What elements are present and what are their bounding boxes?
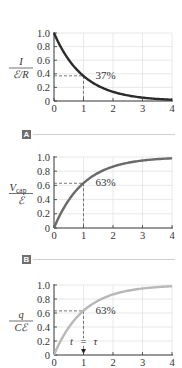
t-equals-tau-marker: t=τ: [70, 336, 99, 355]
y-axis-label: Iℰ/R: [9, 56, 33, 80]
chart-current-decay: 00.20.40.60.81.001234Iℰ/R37%: [0, 0, 182, 125]
chart-capacitor-charge: 00.20.40.60.81.001234qCℰ63%t=τ: [0, 245, 182, 368]
y-axis-label: Vcapℰ: [9, 182, 33, 206]
y-tick-label: 0.8: [37, 166, 50, 177]
y-tick-label: 0.6: [37, 55, 50, 66]
y-tick-label: 0.2: [37, 208, 50, 219]
percent-annotation: 37%: [96, 69, 116, 81]
svg-text:ℰ: ℰ: [18, 195, 26, 206]
x-tick-label: 4: [169, 357, 175, 368]
y-tick-label: 0.8: [37, 41, 50, 52]
axes: 00.20.40.60.81.001234: [37, 152, 176, 242]
svg-text:=: =: [81, 336, 87, 347]
arrow-down-icon: [81, 349, 86, 354]
y-tick-label: 1.0: [37, 28, 50, 39]
plot-charge: 00.20.40.60.81.001234qCℰ63%t=τ: [0, 245, 182, 368]
x-tick-label: 0: [51, 230, 56, 241]
svg-text:I: I: [18, 56, 23, 67]
x-tick-label: 4: [169, 230, 175, 241]
y-axis-label: qCℰ: [9, 309, 33, 333]
plot-current: 00.20.40.60.81.001234Iℰ/R37%: [0, 0, 182, 125]
x-tick-label: 1: [81, 230, 86, 241]
chart-capacitor-voltage: 00.20.40.60.81.001234Vcapℰ63%: [0, 125, 182, 245]
x-tick-label: 3: [140, 103, 145, 114]
svg-text:q: q: [18, 309, 23, 320]
plot-voltage: 00.20.40.60.81.001234Vcapℰ63%: [0, 125, 182, 245]
percent-annotation: 63%: [96, 176, 116, 188]
svg-text:Cℰ: Cℰ: [14, 322, 29, 333]
y-tick-label: 0.4: [37, 68, 51, 79]
y-tick-label: 0: [45, 96, 50, 107]
dashed-guides: [54, 311, 84, 355]
x-tick-label: 3: [140, 357, 145, 368]
y-tick-label: 1.0: [37, 280, 50, 291]
x-tick-label: 2: [110, 230, 115, 241]
y-tick-label: 0.2: [37, 82, 50, 93]
axes: 00.20.40.60.81.001234: [37, 280, 176, 368]
y-tick-label: 0.2: [37, 336, 50, 347]
x-tick-label: 2: [110, 103, 115, 114]
svg-text:Vcap: Vcap: [10, 182, 27, 195]
x-tick-label: 1: [81, 103, 86, 114]
x-tick-label: 0: [51, 357, 56, 368]
y-tick-label: 0.6: [37, 308, 50, 319]
y-tick-label: 0.6: [37, 180, 50, 191]
y-tick-label: 0: [45, 223, 50, 234]
y-tick-label: 0: [45, 350, 50, 361]
dashed-guides: [54, 76, 84, 101]
percent-annotation: 63%: [96, 304, 116, 316]
dashed-guides: [54, 183, 84, 228]
y-tick-label: 0.4: [37, 322, 51, 333]
x-tick-label: 1: [81, 357, 86, 368]
y-tick-label: 0.4: [37, 194, 51, 205]
y-tick-label: 0.8: [37, 294, 50, 305]
svg-text:ℰ/R: ℰ/R: [13, 69, 29, 80]
x-tick-label: 4: [169, 103, 175, 114]
x-tick-label: 0: [51, 103, 56, 114]
y-tick-label: 1.0: [37, 152, 50, 163]
x-tick-label: 3: [140, 230, 145, 241]
x-tick-label: 2: [110, 357, 115, 368]
